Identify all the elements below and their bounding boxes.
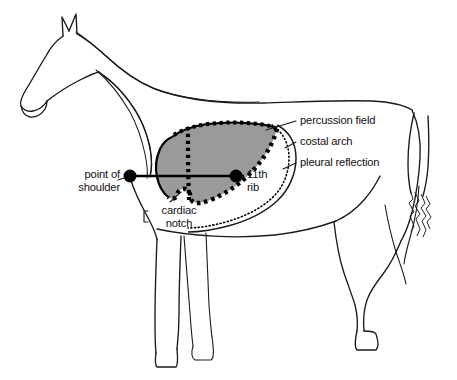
eleventh-rib-dot [230,170,243,183]
muzzle-outline [21,101,47,117]
off-foreleg-front [184,236,193,346]
near-foreleg-back [177,236,181,349]
tail-outline-left [408,113,414,193]
point-of-shoulder-dot [124,170,137,183]
label-cardiac-notch: cardiac notch [151,204,207,230]
near-hindleg-front [334,222,357,331]
off-fore-hoof [192,337,213,360]
near-foreleg-front [155,239,157,353]
label-percussion-field: percussion field [300,114,375,127]
label-eleventh-rib-line1: 11th [247,168,267,181]
label-eleventh-rib: 11th rib [247,168,267,194]
off-foreleg-back [206,233,212,337]
scapula-line [96,70,147,178]
label-point-of-shoulder-line1: point of [40,168,120,181]
mane-line [76,32,259,102]
flank-line [336,176,380,221]
tail-hair-tuft [409,190,431,237]
label-point-of-shoulder: point of shoulder [40,168,120,194]
near-fore-hoof [155,349,177,367]
neck-underline-inner [104,76,152,177]
label-cardiac-notch-line2: notch [151,217,207,230]
right-ear-icon [69,14,77,34]
tail-outline-right [423,116,429,196]
head-outline [20,36,63,111]
leader-pleural-reflection [283,163,296,169]
equine-percussion-field-diagram: percussion field costal arch pleural ref… [0,0,457,380]
label-cardiac-notch-line1: cardiac [151,204,207,217]
label-costal-arch: costal arch [300,135,352,148]
label-pleural-reflection: pleural reflection [300,156,379,169]
label-eleventh-rib-line2: rib [247,181,267,194]
off-hindleg-front [385,205,406,284]
near-hindleg-back [364,241,401,331]
label-point-of-shoulder-line2: shoulder [40,181,120,194]
jaw-line [47,72,99,101]
neck-underline-outer [99,72,152,176]
near-hind-hoof [355,331,378,350]
left-ear-icon [62,17,69,36]
off-hindleg-back [404,186,419,264]
